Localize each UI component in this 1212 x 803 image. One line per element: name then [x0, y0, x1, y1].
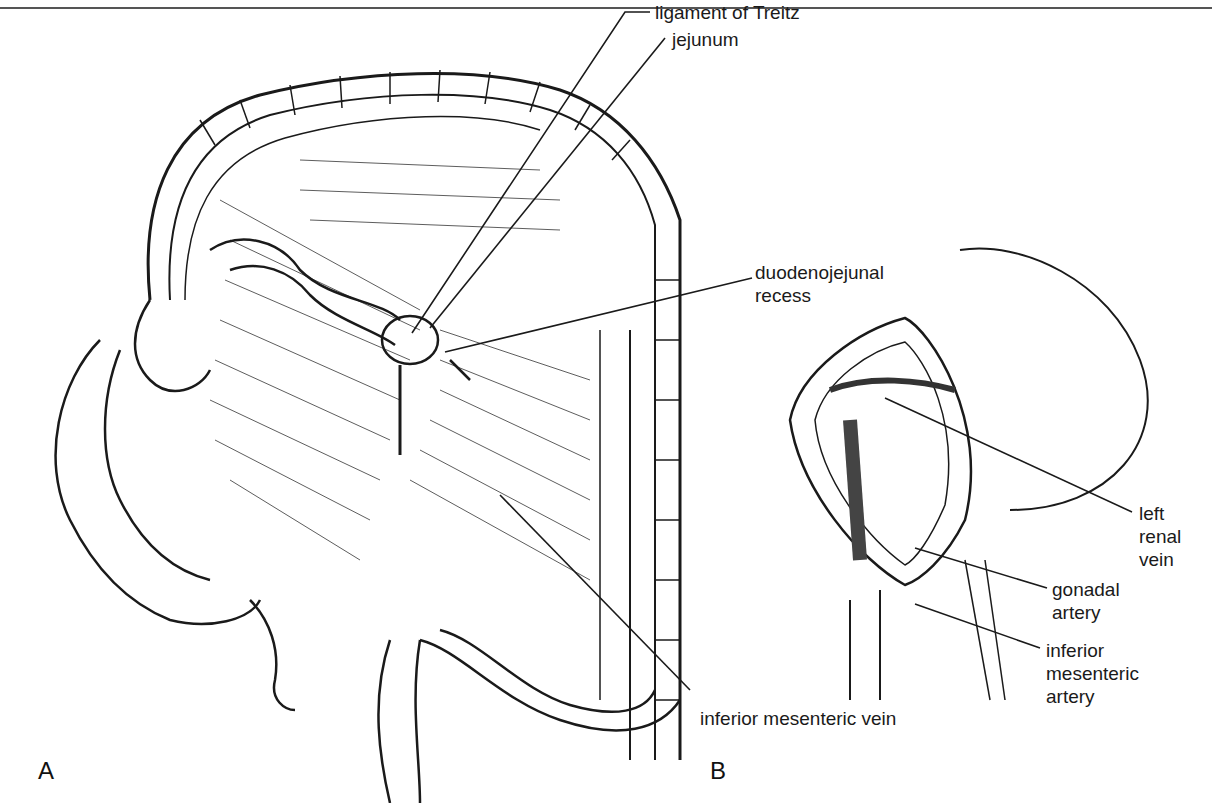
- label-duodenojejunal: duodenojejunal: [755, 261, 884, 284]
- leader-left-renal-vein: [885, 398, 1132, 512]
- label-inferior-mesenteric-vein: inferior mesenteric vein: [700, 707, 896, 730]
- label-left: left: [1139, 502, 1164, 525]
- leader-duodenojejunal-recess: [445, 278, 752, 352]
- leader-gonadal-artery: [915, 548, 1047, 588]
- label-gonadal-artery: artery: [1052, 601, 1101, 624]
- label-ima-artery: artery: [1046, 685, 1095, 708]
- label-vein: vein: [1139, 548, 1174, 571]
- leader-lines: [412, 12, 1132, 720]
- label-mesenteric: mesenteric: [1046, 662, 1139, 685]
- label-ligament-of-treitz: ligament of Treitz: [655, 1, 800, 24]
- label-gonadal: gonadal: [1052, 578, 1120, 601]
- leader-inferior-mesenteric-artery: [915, 604, 1040, 648]
- colon-frame: [148, 74, 680, 760]
- panel-b-drawing: [790, 248, 1148, 700]
- label-jejunum: jejunum: [672, 28, 739, 51]
- panel-label-a: A: [38, 757, 54, 785]
- panel-label-b: B: [710, 757, 726, 785]
- duodenojejunal-flexure: [382, 316, 470, 455]
- leader-ligament-of-treitz: [412, 12, 650, 333]
- label-renal: renal: [1139, 525, 1181, 548]
- label-inferior: inferior: [1046, 639, 1104, 662]
- leader-jejunum: [430, 38, 665, 328]
- anatomy-illustration: [0, 0, 1212, 803]
- small-intestine: [56, 240, 400, 710]
- leader-inferior-mesenteric-vein: [500, 495, 690, 690]
- label-recess: recess: [755, 284, 811, 307]
- sigmoid-colon: [378, 630, 680, 803]
